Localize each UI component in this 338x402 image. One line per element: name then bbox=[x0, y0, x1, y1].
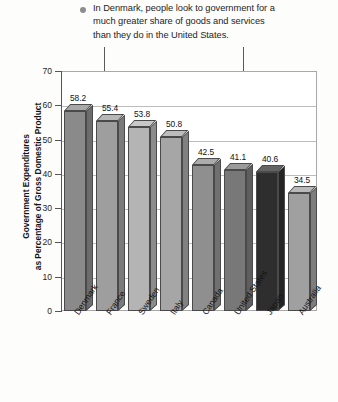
bar-france bbox=[96, 121, 118, 311]
y-axis-tick bbox=[55, 208, 62, 209]
bar-united-states bbox=[224, 170, 246, 311]
bar-side bbox=[86, 105, 93, 311]
bar-sweden bbox=[128, 127, 150, 311]
bullet-dot-icon bbox=[80, 7, 86, 13]
bar-italy bbox=[160, 137, 182, 311]
caption-text: In Denmark, people look to government fo… bbox=[93, 2, 275, 42]
bar-face bbox=[192, 165, 214, 311]
bar-face bbox=[256, 172, 278, 311]
y-axis-tick-label: 70 bbox=[28, 66, 52, 76]
bar-japan bbox=[256, 172, 278, 311]
y-axis-title: Government Expenditures as Percentage of… bbox=[21, 81, 44, 293]
y-axis-tick bbox=[55, 277, 62, 278]
bar-face bbox=[224, 170, 246, 311]
bar-face bbox=[160, 137, 182, 311]
bar-value-label: 40.6 bbox=[250, 154, 290, 164]
y-axis-tick-label: 0 bbox=[28, 306, 52, 316]
bar-denmark bbox=[64, 111, 86, 311]
y-axis-tick bbox=[55, 311, 62, 312]
bar-value-label: 34.5 bbox=[282, 175, 322, 185]
y-axis-tick bbox=[55, 71, 62, 72]
bar-side bbox=[150, 120, 157, 311]
y-axis-tick bbox=[55, 140, 62, 141]
y-axis-tick bbox=[55, 242, 62, 243]
bar-side bbox=[278, 166, 285, 311]
x-axis-tick-labels: DenmarkFranceSwedenItalyCanadaUnited Sta… bbox=[61, 311, 317, 399]
bar-face bbox=[128, 127, 150, 311]
bars-layer: 58.255.453.850.842.541.140.634.5 bbox=[61, 71, 317, 311]
bar-value-label: 53.8 bbox=[122, 109, 162, 119]
caption-annotation: In Denmark, people look to government fo… bbox=[80, 2, 330, 42]
chart-page: In Denmark, people look to government fo… bbox=[0, 0, 338, 402]
bar-face bbox=[96, 121, 118, 311]
bar-canada bbox=[192, 165, 214, 311]
bar-value-label: 58.2 bbox=[58, 93, 98, 103]
bar-side bbox=[118, 115, 125, 311]
bar-side bbox=[182, 131, 189, 311]
bar-face bbox=[64, 111, 86, 311]
y-axis-tick bbox=[55, 105, 62, 106]
y-axis-tick bbox=[55, 174, 62, 175]
bar-value-label: 50.8 bbox=[154, 119, 194, 129]
